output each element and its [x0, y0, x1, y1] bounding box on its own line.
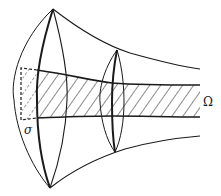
- diagram-canvas: [0, 0, 221, 196]
- outer-surface-upper: [53, 9, 200, 69]
- stream-band-bottom-edge: [37, 116, 200, 118]
- region-label: Ω: [203, 96, 213, 108]
- outer-surface-lower: [50, 136, 200, 188]
- flow-tube-diagram: σ Ω: [0, 0, 221, 196]
- stream-band-hidden-part: [21, 68, 37, 120]
- cross-section-label: σ: [24, 124, 32, 136]
- stream-band: [37, 70, 200, 118]
